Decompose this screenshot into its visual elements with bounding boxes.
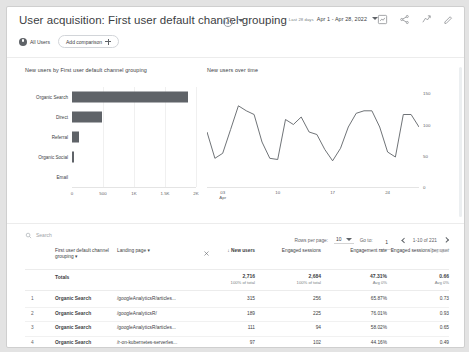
totals-value: 0.66	[387, 273, 449, 279]
row-landing-page: /r-on-kubernetes-serverles...	[117, 340, 177, 345]
check-circle-icon[interactable]	[223, 17, 233, 27]
chevron-down-icon	[346, 238, 352, 241]
column-header-metric[interactable]: Engagement rate	[325, 248, 387, 254]
row-metric-cell: 97	[193, 340, 255, 345]
row-index: 2	[31, 311, 34, 316]
bar-chart-title: New users by First user default channel …	[25, 67, 203, 73]
row-index: 1	[31, 296, 34, 301]
line-chart-x-tick: 17	[330, 190, 335, 195]
bar-chart-bar[interactable]	[72, 92, 188, 103]
totals-subtext: 100% of total	[259, 280, 321, 286]
line-chart-title: New users over time	[207, 67, 451, 73]
bar-chart-bar[interactable]	[72, 152, 74, 163]
row-channel: Organic Search	[55, 311, 91, 316]
column-header-metric[interactable]: Engaged sessions	[259, 248, 321, 254]
share-icon[interactable]	[399, 14, 410, 25]
bar-chart-category-label: Organic Search	[36, 95, 68, 100]
bar-chart-x-tick: 2K	[193, 191, 198, 196]
table-row[interactable]: 3Organic Search/googleAnalyticsR/article…	[25, 322, 449, 336]
row-metric-cell: 65.87%	[325, 296, 387, 301]
totals-cell: 2,716100% of total	[193, 273, 255, 286]
bar-chart[interactable]: Organic SearchDirectReferralOrganic Soci…	[25, 87, 203, 211]
table-row[interactable]: 1Organic Search/googleAnalyticsR/article…	[25, 293, 449, 307]
compare-icon[interactable]	[421, 14, 432, 25]
bar-chart-bar[interactable]	[72, 132, 79, 143]
panel-scrollbar[interactable]	[459, 67, 462, 217]
totals-cell: 47.31%Avg 0%	[325, 273, 387, 286]
plus-icon	[105, 39, 111, 45]
row-index: 3	[31, 325, 34, 330]
column-header-metric[interactable]: ↓ New users	[193, 248, 255, 254]
totals-value: 2,716	[193, 273, 255, 279]
chevron-left-icon[interactable]	[401, 237, 407, 243]
column-header-divider	[25, 269, 449, 270]
bar-chart-x-axis	[72, 187, 196, 188]
edit-icon[interactable]	[443, 14, 454, 25]
line-chart-y-tick: 50	[423, 153, 428, 158]
line-chart-plot-area	[207, 87, 419, 187]
rows-per-page-select[interactable]: 10	[334, 236, 354, 244]
bar-chart-bar[interactable]	[72, 112, 102, 123]
row-metric-cell: 0.93	[387, 311, 449, 316]
report-header: User acquisition: First user default cha…	[7, 7, 464, 35]
totals-row: Totals 2,716100% of total2,684100% of to…	[25, 272, 449, 287]
column-header-dimension[interactable]: First user default channel grouping ▾	[55, 248, 111, 261]
add-comparison-label: Add comparison	[66, 39, 102, 45]
chip-all-users[interactable]: All Users	[19, 38, 50, 46]
bar-chart-category-label: Organic Social	[38, 155, 68, 160]
line-chart[interactable]: 05010015003Apr101724	[207, 87, 451, 211]
table-toolbar: Search Rows per page: 10 Go to: 1 1-10 o…	[25, 229, 449, 243]
header-actions	[377, 14, 454, 25]
totals-divider	[25, 290, 449, 291]
header-divider	[7, 57, 464, 58]
row-channel: Organic Search	[55, 325, 91, 330]
search-icon[interactable]	[25, 232, 32, 239]
totals-cell: 2,684100% of total	[259, 273, 321, 286]
screenshot-root: User acquisition: First user default cha…	[0, 0, 469, 352]
line-chart-y-tick: 150	[423, 91, 430, 96]
go-to-input[interactable]: 1	[379, 230, 395, 250]
column-header-dimension[interactable]: Landing page ▾	[117, 248, 187, 254]
row-index: 4	[31, 340, 34, 345]
rows-per-page-label: Rows per page:	[294, 238, 328, 243]
table-row[interactable]: 4Organic Search/r-on-kubernetes-serverle…	[25, 337, 449, 348]
line-chart-y-tick: 100	[423, 122, 430, 127]
pagination-controls: Rows per page: 10 Go to: 1 1-10 of 221	[294, 230, 449, 250]
row-metric-cell: 44.16%	[325, 340, 387, 345]
pagination-range: 1-10 of 221	[413, 238, 437, 243]
chip-all-users-label: All Users	[30, 39, 50, 45]
totals-subtext: Avg 0%	[387, 280, 449, 286]
bar-chart-category-label: Email	[57, 175, 69, 180]
bar-chart-plot-area	[72, 87, 196, 187]
date-range-selector[interactable]: Last 28 days Apr 1 - Apr 28, 2022	[289, 16, 378, 22]
bar-chart-gridline	[196, 87, 197, 187]
bar-chart-panel: New users by First user default channel …	[25, 67, 203, 217]
bar-chart-x-tick: 1K	[131, 191, 136, 196]
row-channel: Organic Search	[55, 296, 91, 301]
totals-value: 47.31%	[325, 273, 387, 279]
chevron-down-icon[interactable]	[238, 19, 244, 22]
add-comparison-button[interactable]: Add comparison	[58, 35, 119, 48]
row-landing-page: /googleAnalyticsR/articles...	[117, 296, 176, 301]
chevron-right-icon[interactable]	[443, 237, 449, 243]
totals-cell: 0.66Avg 0%	[387, 273, 449, 286]
bar-chart-x-tick: 500	[99, 191, 106, 196]
page-title: User acquisition: First user default cha…	[19, 14, 287, 26]
line-chart-x-tick: 24	[385, 190, 390, 195]
insights-icon[interactable]	[377, 14, 388, 25]
totals-subtext: 100% of total	[193, 280, 255, 286]
column-header-metric[interactable]: Engaged	[387, 248, 449, 254]
row-metric-cell: 189	[193, 311, 255, 316]
rows-per-page-value: 10	[336, 236, 342, 242]
line-chart-x-tick-sublabel: Apr	[219, 195, 226, 200]
go-to-label: Go to:	[360, 238, 373, 243]
row-metric-cell: 225	[259, 311, 321, 316]
go-to-value: 1	[385, 239, 388, 245]
table-row[interactable]: 2Organic Search/googleAnalyticsR/1892257…	[25, 308, 449, 322]
row-metric-cell: 0.49	[387, 340, 449, 345]
row-metric-cell: 94	[259, 325, 321, 330]
row-landing-page: /googleAnalyticsR/articles...	[117, 325, 176, 330]
search-input[interactable]: Search	[36, 232, 52, 238]
row-metric-cell: 256	[259, 296, 321, 301]
totals-subtext: Avg 0%	[325, 280, 387, 286]
